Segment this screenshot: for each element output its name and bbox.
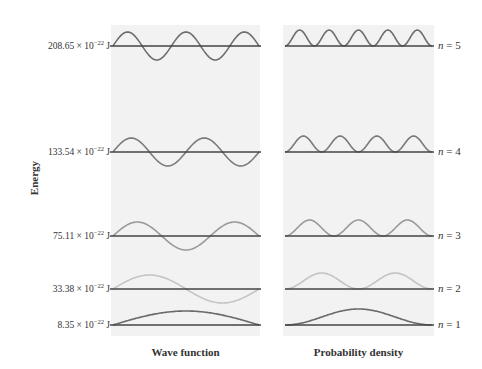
energy-label-n5: 208.65 × 10−22 J <box>48 39 110 51</box>
probability-density-curve-n3 <box>285 220 432 236</box>
probability-density-curve-n4 <box>285 136 432 152</box>
quantum-number-label-n5: n = 5 <box>438 39 461 51</box>
probability-density-axis-label: Probability density <box>283 346 434 358</box>
wave-function-axis-label: Wave function <box>111 346 260 358</box>
energy-label-n4: 133.54 × 10−22 J <box>48 145 110 157</box>
energy-label-n3: 75.11 × 10−22 J <box>53 229 110 241</box>
quantum-number-label-n4: n = 4 <box>438 145 461 157</box>
probability-density-curve-n5 <box>285 30 432 46</box>
energy-label-n2: 33.38 × 10−22 J <box>53 282 110 294</box>
energy-label-n1: 8.35 × 10−22 J <box>58 318 110 330</box>
probability-density-curve-n2 <box>285 273 432 289</box>
energy-axis-label: Energy <box>28 158 40 198</box>
quantum-number-label-n3: n = 3 <box>438 229 461 241</box>
energy-level-plot <box>0 0 482 369</box>
quantum-number-label-n1: n = 1 <box>438 318 461 330</box>
quantum-number-label-n2: n = 2 <box>438 282 461 294</box>
wave-function-curve-n1 <box>113 311 259 325</box>
probability-density-curve-n1 <box>285 309 432 325</box>
